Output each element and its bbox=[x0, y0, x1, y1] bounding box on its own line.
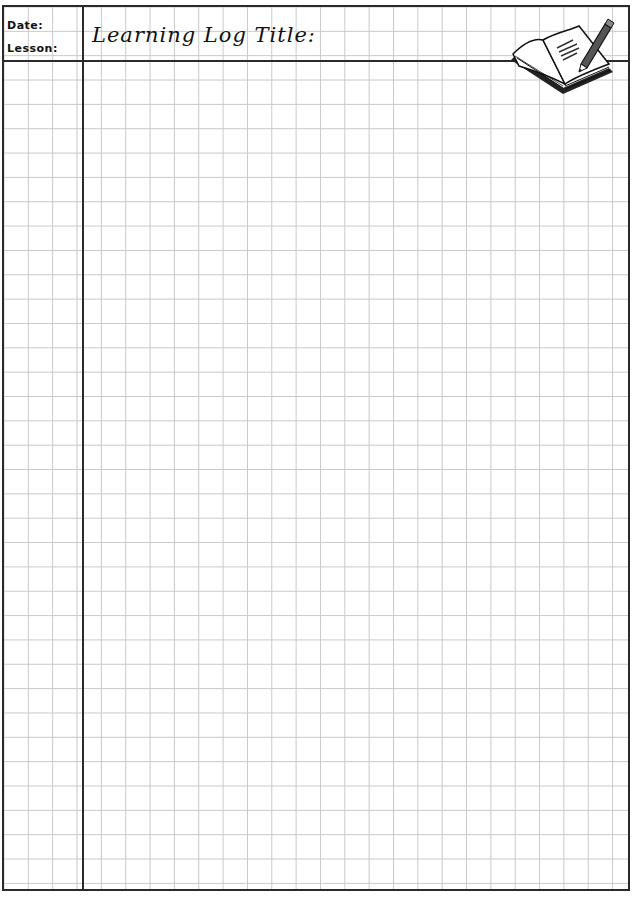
learning-log-sheet: Date: Lesson: Learning Log Title: bbox=[2, 5, 630, 891]
lesson-label: Lesson: bbox=[7, 42, 58, 55]
margin-divider bbox=[82, 7, 84, 889]
book-and-pencil-icon bbox=[505, 12, 617, 100]
date-label: Date: bbox=[7, 19, 43, 32]
learning-log-title-label: Learning Log Title: bbox=[92, 23, 316, 47]
